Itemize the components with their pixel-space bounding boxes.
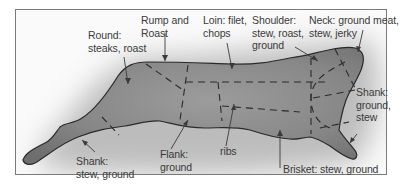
label-shank-rear-line2: stew, ground — [76, 168, 134, 181]
label-shoulder-line1: Shoulder: — [252, 14, 304, 27]
label-round-line2: steaks, roast — [88, 42, 146, 55]
label-ribs-line1: ribs — [220, 145, 237, 158]
label-shank-front: Shank: ground, stew — [356, 86, 391, 124]
label-shank-front-line3: stew — [356, 111, 391, 124]
label-rump: Rump and Roast — [141, 14, 189, 39]
label-shoulder-line3: ground — [252, 39, 304, 52]
label-ribs: ribs — [220, 145, 237, 158]
label-brisket-line1: Brisket: stew, ground — [283, 163, 378, 176]
label-shank-rear-line1: Shank: — [76, 155, 134, 168]
label-neck-line1: Neck: ground meat, — [309, 14, 399, 27]
label-brisket: Brisket: stew, ground — [283, 163, 378, 176]
label-shank-front-line2: ground, — [356, 99, 391, 112]
label-loin-line1: Loin: filet, — [203, 14, 247, 27]
label-neck: Neck: ground meat, stew, jerky — [309, 14, 399, 39]
label-loin-line2: chops — [203, 27, 247, 40]
label-shoulder-line2: stew, roast, — [252, 27, 304, 40]
label-rump-line1: Rump and — [141, 14, 189, 27]
label-neck-line2: stew, jerky — [309, 27, 399, 40]
label-shoulder: Shoulder: stew, roast, ground — [252, 14, 304, 52]
label-rump-line2: Roast — [141, 27, 189, 40]
label-flank-line1: Flank: — [160, 148, 192, 161]
label-round: Round: steaks, roast — [88, 29, 146, 54]
label-flank-line2: ground — [160, 161, 192, 174]
label-loin: Loin: filet, chops — [203, 14, 247, 39]
label-shank-front-line1: Shank: — [356, 86, 391, 99]
label-shank-rear: Shank: stew, ground — [76, 155, 134, 180]
label-flank: Flank: ground — [160, 148, 192, 173]
label-round-line1: Round: — [88, 29, 146, 42]
